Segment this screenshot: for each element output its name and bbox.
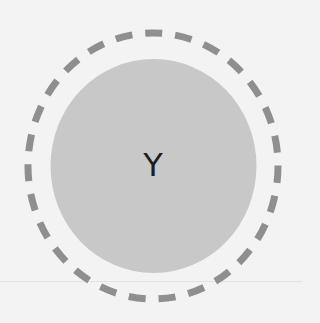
circle-label: Y [103,140,203,190]
